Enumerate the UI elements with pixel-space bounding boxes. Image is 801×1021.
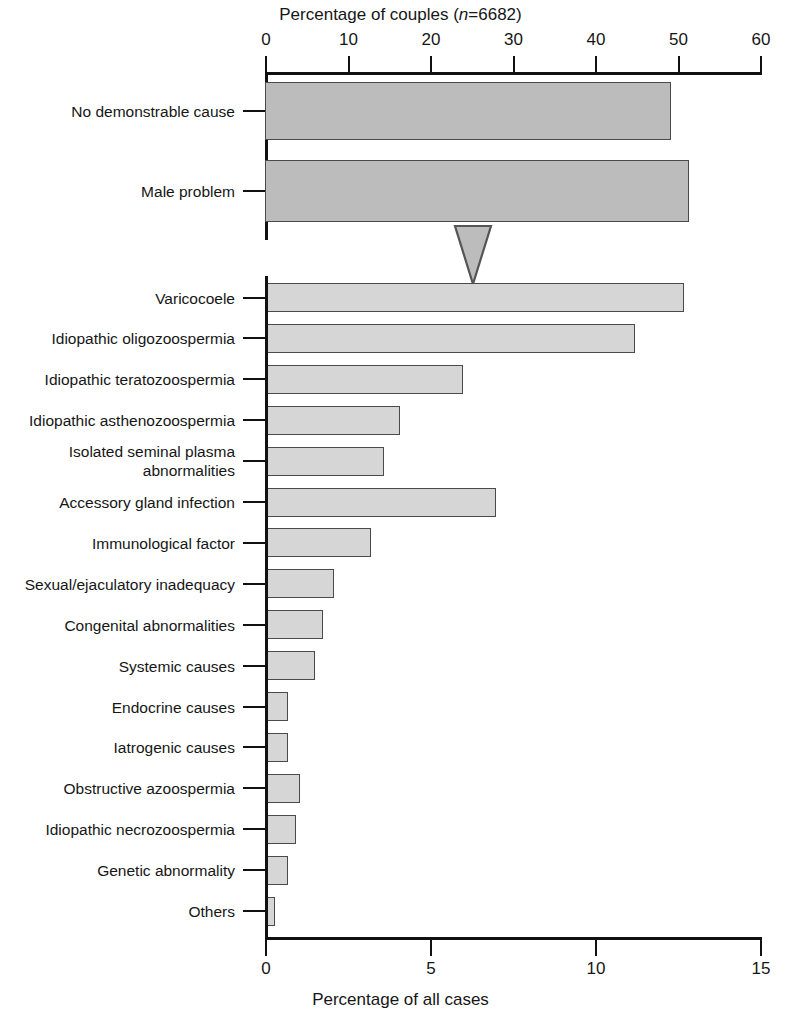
bottom-axis-tick-label: 15 xyxy=(752,959,771,979)
category-tick xyxy=(243,583,265,585)
category-label-bottom-6: Immunological factor xyxy=(92,533,235,552)
bottom-axis-tick-label: 0 xyxy=(261,959,270,979)
top-axis-tick xyxy=(595,56,597,72)
category-label-bottom-10: Endocrine causes xyxy=(112,697,235,716)
top-axis-tick-label: 40 xyxy=(587,30,606,50)
axis-break-marker xyxy=(453,224,493,290)
category-tick xyxy=(243,910,265,912)
top-axis-tick-label: 10 xyxy=(339,30,358,50)
category-tick xyxy=(243,665,265,667)
category-tick xyxy=(243,337,265,339)
bottom-axis-tick xyxy=(265,940,267,956)
category-label-bottom-8: Congenital abnormalities xyxy=(64,615,235,634)
category-label-bottom-11: Iatrogenic causes xyxy=(114,738,236,757)
bar-top-1 xyxy=(265,160,689,222)
bar-bottom-11 xyxy=(265,733,288,762)
top-axis-title-italic-n: n xyxy=(459,5,468,24)
category-label-bottom-14: Genetic abnormality xyxy=(97,861,235,880)
bar-bottom-8 xyxy=(265,610,323,639)
bottom-axis-tick-label: 10 xyxy=(587,959,606,979)
top-axis-title: Percentage of couples (n=6682) xyxy=(0,5,801,25)
bar-bottom-7 xyxy=(265,569,334,598)
bar-bottom-10 xyxy=(265,692,288,721)
bottom-axis-tick xyxy=(595,940,597,956)
category-label-top-1: Male problem xyxy=(141,182,235,201)
category-label-bottom-3: Idiopathic asthenozoospermia xyxy=(29,411,235,430)
top-axis-title-suffix: =6682) xyxy=(468,5,521,24)
bar-bottom-3 xyxy=(265,406,400,435)
top-axis-tick-label: 50 xyxy=(669,30,688,50)
top-axis-tick-label: 30 xyxy=(504,30,523,50)
bar-bottom-12 xyxy=(265,774,300,803)
top-axis-title-prefix: Percentage of couples ( xyxy=(279,5,459,24)
category-label-bottom-9: Systemic causes xyxy=(119,656,235,675)
category-tick xyxy=(243,190,265,192)
bar-bottom-4 xyxy=(265,447,384,476)
category-label-bottom-5: Accessory gland infection xyxy=(59,493,235,512)
bar-bottom-13 xyxy=(265,815,296,844)
bottom-axis-tick xyxy=(430,940,432,956)
top-axis-tick xyxy=(430,56,432,72)
category-tick xyxy=(243,501,265,503)
category-label-bottom-15: Others xyxy=(188,902,235,921)
category-tick xyxy=(243,542,265,544)
bar-bottom-6 xyxy=(265,528,371,557)
top-axis-tick xyxy=(265,56,267,72)
bar-chart: Percentage of couples (n=6682) 010203040… xyxy=(0,0,801,1021)
category-tick xyxy=(243,706,265,708)
category-label-top-0: No demonstrable cause xyxy=(71,102,235,121)
bar-bottom-2 xyxy=(265,365,463,394)
top-axis-tick-label: 60 xyxy=(752,30,771,50)
category-tick xyxy=(243,460,265,462)
category-label-bottom-7: Sexual/ejaculatory inadequacy xyxy=(25,574,235,593)
category-tick xyxy=(243,746,265,748)
bar-bottom-14 xyxy=(265,856,288,885)
category-tick xyxy=(243,828,265,830)
category-tick xyxy=(243,787,265,789)
bottom-axis-tick-label: 5 xyxy=(426,959,435,979)
category-label-bottom-1: Idiopathic oligozoospermia xyxy=(51,329,235,348)
category-tick xyxy=(243,110,265,112)
category-label-bottom-4: Isolated seminal plasma abnormalities xyxy=(5,442,235,480)
top-axis-line xyxy=(265,72,762,75)
top-axis-tick xyxy=(760,56,762,72)
top-axis-tick xyxy=(348,56,350,72)
bar-bottom-0 xyxy=(265,283,684,312)
top-axis-tick xyxy=(513,56,515,72)
category-tick xyxy=(243,869,265,871)
category-tick xyxy=(243,297,265,299)
category-label-bottom-13: Idiopathic necrozoospermia xyxy=(45,820,235,839)
category-tick xyxy=(243,378,265,380)
top-axis-tick xyxy=(678,56,680,72)
bottom-axis-vertical-line xyxy=(265,276,268,937)
category-label-bottom-12: Obstructive azoospermia xyxy=(64,779,235,798)
bottom-axis-tick xyxy=(760,940,762,956)
category-label-bottom-0: Varicocoele xyxy=(155,288,235,307)
top-axis-tick-label: 0 xyxy=(261,30,270,50)
category-label-bottom-2: Idiopathic teratozoospermia xyxy=(45,370,235,389)
bar-top-0 xyxy=(265,82,671,140)
top-axis-tick-label: 20 xyxy=(422,30,441,50)
category-tick xyxy=(243,624,265,626)
category-tick xyxy=(243,419,265,421)
bar-bottom-5 xyxy=(265,488,496,517)
bar-bottom-9 xyxy=(265,651,315,680)
bottom-axis-line xyxy=(265,937,762,940)
bottom-axis-title: Percentage of all cases xyxy=(0,990,801,1010)
bar-bottom-1 xyxy=(265,324,635,353)
